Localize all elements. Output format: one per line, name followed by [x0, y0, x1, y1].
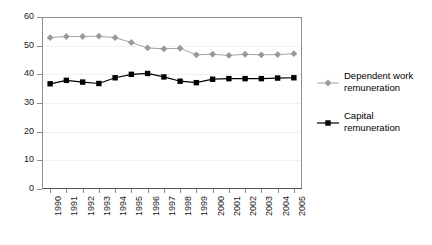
x-axis-tick-label: 2001	[233, 196, 242, 216]
y-axis-tick	[37, 103, 42, 104]
x-axis-tick-label: 1998	[184, 196, 193, 216]
x-axis-tick	[115, 189, 116, 193]
legend-label: Capital	[344, 110, 432, 122]
x-axis-tick-label: 1995	[135, 196, 144, 216]
x-axis-tick	[131, 189, 132, 193]
x-axis-tick-label: 2000	[217, 196, 226, 216]
y-axis-tick	[37, 46, 42, 47]
x-axis-tick-label: 2002	[249, 196, 258, 216]
x-axis-tick	[66, 189, 67, 193]
y-axis-tick-label: 40	[4, 69, 34, 78]
plot-area	[42, 17, 302, 189]
gridline	[43, 132, 301, 133]
x-axis-tick	[229, 189, 230, 193]
x-axis-tick	[278, 189, 279, 193]
x-axis-tick	[148, 189, 149, 193]
gridline	[43, 103, 301, 104]
x-axis-tick	[50, 189, 51, 193]
gridline	[43, 74, 301, 75]
y-axis-tick-label: 0	[4, 184, 34, 193]
legend-label-continued: remuneration	[344, 122, 432, 134]
diamond-marker-icon	[316, 74, 340, 84]
x-axis-tick	[180, 189, 181, 193]
x-axis-tick-label: 1991	[70, 196, 79, 216]
y-axis-tick-label: 10	[4, 155, 34, 164]
x-axis-tick-label: 1997	[168, 196, 177, 216]
x-axis-tick-label: 2003	[265, 196, 274, 216]
chart-legend: Dependent workremunerationCapitalremuner…	[316, 70, 432, 150]
x-axis-tick	[83, 189, 84, 193]
x-axis-tick-label: 2004	[282, 196, 291, 216]
x-axis-tick-label: 1996	[152, 196, 161, 216]
x-axis-tick-label: 1990	[54, 196, 63, 216]
x-axis-tick	[99, 189, 100, 193]
x-axis-tick	[213, 189, 214, 193]
y-axis-tick	[37, 74, 42, 75]
legend-label: Dependent work	[344, 70, 432, 82]
y-axis-tick-label: 30	[4, 98, 34, 107]
x-axis-tick-label: 1994	[119, 196, 128, 216]
x-axis-tick-label: 1992	[87, 196, 96, 216]
y-axis-tick-label: 50	[4, 41, 34, 50]
legend-label-continued: remuneration	[344, 82, 432, 94]
y-axis-tick-label: 60	[4, 12, 34, 21]
x-axis-tick-label: 1999	[200, 196, 209, 216]
y-axis-tick	[37, 17, 42, 18]
square-marker-icon	[316, 114, 340, 124]
y-axis-tick	[37, 132, 42, 133]
gridline	[43, 160, 301, 161]
y-axis-tick	[37, 189, 42, 190]
y-axis-tick-label: 20	[4, 127, 34, 136]
x-axis-tick	[294, 189, 295, 193]
x-axis-tick	[196, 189, 197, 193]
chart-container: 0102030405060 19901991199219931994199519…	[0, 0, 432, 245]
x-axis-tick-label: 2005	[298, 196, 307, 216]
x-axis-tick	[245, 189, 246, 193]
gridline	[43, 46, 301, 47]
y-axis-tick	[37, 160, 42, 161]
x-axis-tick	[164, 189, 165, 193]
x-axis-tick-label: 1993	[103, 196, 112, 216]
legend-entry: Capitalremuneration	[316, 110, 432, 134]
x-axis-tick	[261, 189, 262, 193]
legend-entry: Dependent workremuneration	[316, 70, 432, 94]
